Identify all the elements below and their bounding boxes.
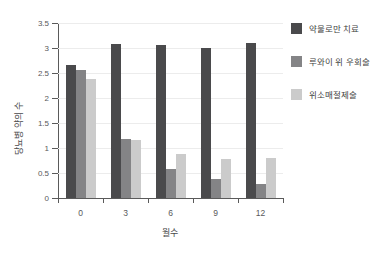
bar bbox=[76, 70, 86, 199]
y-axis-tick-label: 2 bbox=[45, 94, 49, 103]
x-axis-tick bbox=[103, 198, 104, 203]
bar-chart: 당뇨병 약의 수 00.511.522.533.5036912 월수 약물로만 … bbox=[0, 0, 387, 255]
y-axis-tick-label: 0.5 bbox=[38, 169, 49, 178]
x-axis-tick-label: 0 bbox=[78, 208, 83, 218]
x-axis-title: 월수 bbox=[162, 226, 178, 239]
y-axis-tick-label: 1 bbox=[45, 144, 49, 153]
x-axis-tick-label: 9 bbox=[213, 208, 218, 218]
x-axis-tick-label: 3 bbox=[123, 208, 128, 218]
bar bbox=[156, 45, 166, 199]
legend-item[interactable]: 루와이 위 우회술 bbox=[291, 55, 370, 67]
y-axis-tick bbox=[52, 98, 58, 99]
bar-group bbox=[246, 23, 276, 198]
x-axis-tick bbox=[148, 198, 149, 203]
legend-label: 약물로만 치료 bbox=[309, 22, 359, 34]
x-axis-tick-label: 6 bbox=[168, 208, 173, 218]
x-axis-tick bbox=[238, 198, 239, 203]
legend-color-swatch bbox=[291, 56, 302, 67]
legend-label: 위소매절제술 bbox=[309, 88, 357, 100]
bar bbox=[131, 140, 141, 199]
bar bbox=[266, 158, 276, 199]
y-axis-tick bbox=[52, 73, 58, 74]
plot-area: 00.511.522.533.5036912 bbox=[58, 23, 283, 198]
y-axis-tick bbox=[52, 173, 58, 174]
bar bbox=[221, 159, 231, 198]
x-axis-tick bbox=[283, 198, 284, 203]
bar bbox=[111, 44, 121, 198]
bar bbox=[211, 179, 221, 198]
legend-color-swatch bbox=[291, 89, 302, 100]
y-axis-tick-label: 0 bbox=[45, 194, 49, 203]
y-axis-tick bbox=[52, 148, 58, 149]
bar bbox=[121, 139, 131, 198]
bars-layer bbox=[58, 23, 283, 198]
y-axis-tick bbox=[52, 123, 58, 124]
bar bbox=[66, 65, 76, 199]
bar bbox=[256, 184, 266, 199]
x-axis-tick bbox=[58, 198, 59, 203]
x-axis-line bbox=[58, 198, 283, 199]
y-axis-tick-label: 3 bbox=[45, 44, 49, 53]
x-axis-tick-label: 12 bbox=[256, 208, 265, 218]
bar-group bbox=[111, 23, 141, 198]
legend-item[interactable]: 위소매절제술 bbox=[291, 88, 370, 100]
bar bbox=[201, 48, 211, 199]
legend: 약물로만 치료루와이 위 우회술위소매절제술 bbox=[291, 22, 370, 100]
y-axis-tick bbox=[52, 23, 58, 24]
bar bbox=[176, 154, 186, 198]
bar bbox=[166, 169, 176, 198]
bar bbox=[86, 79, 96, 198]
y-axis-title: 당뇨병 약의 수 bbox=[12, 101, 25, 154]
x-axis-tick bbox=[193, 198, 194, 203]
y-axis-tick-label: 2.5 bbox=[38, 69, 49, 78]
y-axis-tick-label: 3.5 bbox=[38, 19, 49, 28]
bar-group bbox=[156, 23, 186, 198]
bar-group bbox=[201, 23, 231, 198]
y-axis-tick bbox=[52, 48, 58, 49]
bar-group bbox=[66, 23, 96, 198]
legend-color-swatch bbox=[291, 23, 302, 34]
legend-label: 루와이 위 우회술 bbox=[309, 55, 370, 67]
bar bbox=[246, 43, 256, 199]
y-axis-tick-label: 1.5 bbox=[38, 119, 49, 128]
legend-item[interactable]: 약물로만 치료 bbox=[291, 22, 370, 34]
